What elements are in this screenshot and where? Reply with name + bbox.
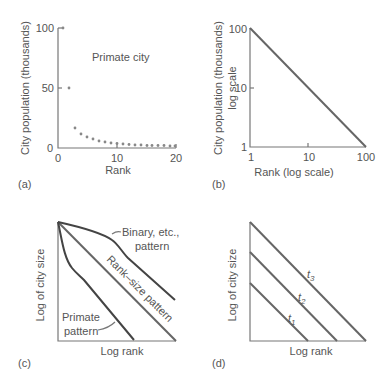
label-primate-line2: pattern [64,325,98,337]
rank-size-line [250,28,366,147]
x-axis-label: Rank (log scale) [254,166,333,178]
annotation-primate-city: Primate city [92,51,150,63]
label-primate-line1: Primate [62,311,100,323]
x-axis-label: Log rank [101,345,144,357]
x-axis-label: Rank [105,164,131,176]
x-axis-label: Log rank [290,345,333,357]
label-binary-line1: Binary, etc., [122,226,179,238]
figure: 100 50 0 0 10 20 Rank City population (t… [0,0,390,386]
label-t1: t1 [288,312,296,327]
panel-b: 100 10 1 1 10 100 Rank (log scale) City … [212,21,375,190]
panel-c: Binary, etc., pattern Rank–size pattern … [18,222,179,369]
panel-a: 100 50 0 0 10 20 Rank City population (t… [18,21,182,190]
y-axis-label-line1: City population (thousands) [212,21,224,155]
primate-leader-line [98,322,115,330]
y-axis-label: City population (thousands) [19,21,31,155]
xtick-label: 10 [111,152,123,164]
xtick-label: 100 [357,151,375,163]
ytick-label: 0 [47,142,53,154]
ytick-label: 100 [229,23,247,35]
xtick-label: 0 [55,152,61,164]
axes-a [58,28,176,148]
y-axis-label: Log of city size [34,249,46,322]
ytick-label: 1 [241,141,247,153]
ytick-label: 50 [42,82,54,94]
t3-line [250,222,366,341]
binary-leader-line [112,232,121,234]
panel-d: t3 t2 t1 Log rank Log of city size (d) [212,222,366,369]
ytick-label: 100 [36,22,54,34]
panel-tag: (d) [212,357,225,369]
panel-tag: (a) [18,178,31,190]
xtick-label: 20 [170,152,182,164]
label-rank-size-pattern: Rank–size pattern [105,253,176,324]
panel-tag: (b) [212,178,225,190]
label-binary-line2: pattern [135,240,169,252]
data-points [62,27,177,148]
xtick-label: 1 [248,151,254,163]
panel-tag: (c) [18,357,31,369]
y-axis-label-line2: log scale [226,66,238,109]
xtick-label: 10 [303,151,315,163]
y-axis-label: Log of city size [226,249,238,322]
